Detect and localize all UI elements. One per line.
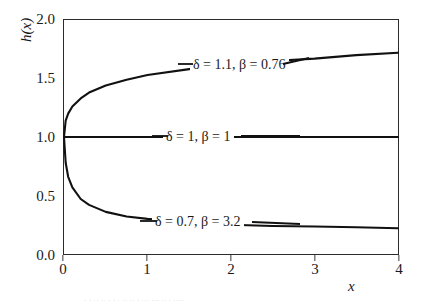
- y-axis-title: h(x): [18, 18, 35, 42]
- y-tick-label-1-0: 1.0: [0, 129, 63, 146]
- figure-container: 2.0 1.5 1.0 0.5 0.0 0 1 2 3 4 h(x) x δ =…: [0, 0, 427, 308]
- x-tick-label-0: 0: [59, 261, 67, 278]
- y-tick-label-1-5: 1.5: [0, 70, 63, 87]
- x-tick-label-1: 1: [143, 261, 151, 278]
- x-tick-label-2: 2: [227, 261, 235, 278]
- x-tick-label-3: 3: [311, 261, 319, 278]
- annotation-delta-0-7: δ = 0.7, β = 3.2: [152, 214, 244, 230]
- x-axis-title: x: [348, 278, 355, 295]
- annotation-delta-1: δ = 1, β = 1: [163, 129, 234, 145]
- y-tick-label-0-0: 0.0: [0, 247, 63, 264]
- x-tick-label-4: 4: [395, 261, 403, 278]
- y-tick-label-0-5: 0.5: [0, 188, 63, 205]
- clipped-caption: · · ·· ·· · · · ·· ·· · ··· ··· ·· · ···…: [84, 296, 348, 305]
- annotation-delta-1-1: δ = 1.1, β = 0.76: [190, 57, 289, 73]
